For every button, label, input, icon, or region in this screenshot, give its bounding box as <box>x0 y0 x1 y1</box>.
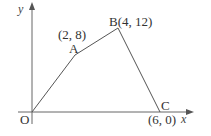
x-axis-arrow-icon <box>186 109 194 115</box>
origin-label: O <box>20 112 29 127</box>
x-axis-label: x <box>180 112 187 126</box>
y-axis-arrow-icon <box>29 2 35 10</box>
point-c-coord: (6, 0) <box>148 112 176 127</box>
polygon-oabc <box>32 28 160 112</box>
point-b-label: B(4, 12) <box>109 14 152 29</box>
point-c-label: C <box>161 98 170 113</box>
y-axis-label: y <box>17 2 24 16</box>
coordinate-diagram: y x O (2, 8) A B(4, 12) C (6, 0) <box>0 0 211 136</box>
point-a-label: A <box>69 41 79 56</box>
point-a-coord: (2, 8) <box>58 27 86 42</box>
